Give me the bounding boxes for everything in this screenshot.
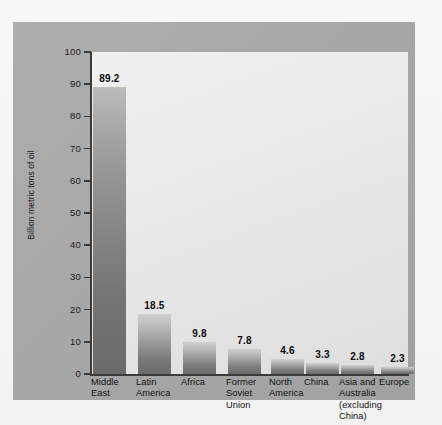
y-axis-tick	[84, 244, 91, 246]
y-axis-tick	[84, 51, 91, 53]
y-axis-tick-label: 80	[41, 110, 81, 121]
x-axis-category-label: Europe	[379, 377, 437, 388]
y-axis-tick	[84, 277, 91, 279]
y-axis-tick-label: 90	[41, 78, 81, 89]
bar	[183, 342, 216, 374]
y-axis-title: Billion metric tons of oil	[26, 115, 36, 275]
bar-value-label: 18.5	[132, 300, 177, 311]
x-axis-category-label-line: Europe	[379, 377, 437, 388]
bar-value-label: 89.2	[87, 73, 132, 84]
x-axis-category-label-line: (excluding	[339, 400, 397, 411]
chart-figure: 0102030405060708090100 Billion metric to…	[0, 0, 442, 425]
bar	[381, 367, 414, 374]
y-axis-tick	[84, 373, 91, 375]
y-axis-tick-label: 100	[41, 46, 81, 57]
bar-value-label: 7.8	[222, 335, 267, 346]
y-axis-tick	[84, 309, 91, 311]
bar-value-label: 2.3	[375, 353, 420, 364]
y-axis-tick-label: 30	[41, 271, 81, 282]
y-axis-tick-label: 20	[41, 304, 81, 315]
bar	[228, 349, 261, 374]
bar	[306, 363, 339, 374]
x-axis-category-label-line: America	[136, 388, 194, 399]
y-axis-tick-label: 40	[41, 239, 81, 250]
y-axis-tick-label: 70	[41, 143, 81, 154]
bar	[93, 87, 126, 374]
y-axis-tick	[84, 116, 91, 118]
bar	[138, 314, 171, 374]
chart-panel: 0102030405060708090100 Billion metric to…	[13, 22, 415, 400]
x-axis-category-label-line: China)	[339, 411, 397, 422]
x-axis-line	[90, 374, 409, 376]
bar-value-label: 2.8	[335, 351, 380, 362]
y-axis-tick-labels: 0102030405060708090100	[35, 22, 81, 400]
x-axis-category-label-line: Australia	[339, 388, 397, 399]
y-axis-tick	[84, 148, 91, 150]
y-axis-tick-label: 0	[41, 368, 81, 379]
bar	[341, 365, 374, 374]
x-axis-category-label-line: Union	[226, 400, 284, 411]
y-axis-tick-label: 50	[41, 207, 81, 218]
y-axis-tick-label: 10	[41, 336, 81, 347]
y-axis-tick	[84, 341, 91, 343]
x-axis-category-label-line: America	[269, 388, 327, 399]
bar	[271, 359, 304, 374]
y-axis-tick	[84, 212, 91, 214]
y-axis-tick-label: 60	[41, 175, 81, 186]
y-axis-tick	[84, 180, 91, 182]
bar-value-label: 9.8	[177, 328, 222, 339]
